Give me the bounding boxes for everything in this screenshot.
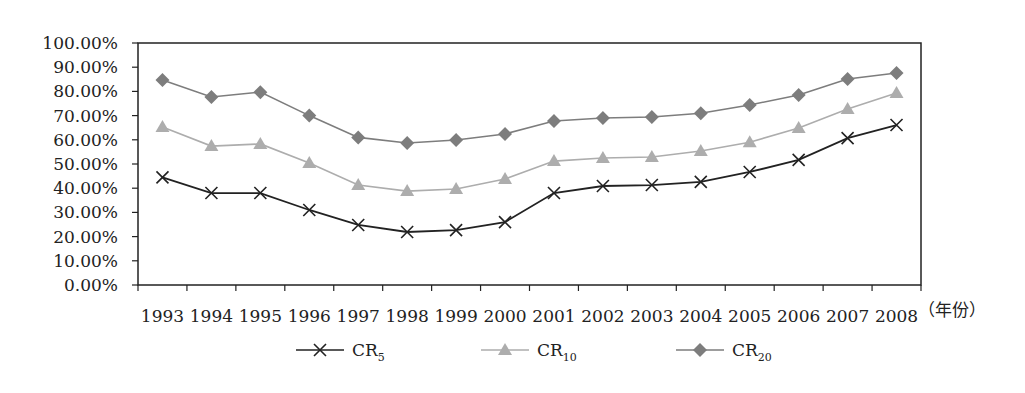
diamond-marker-icon <box>449 133 463 147</box>
line-chart: 0.00%10.00%20.00%30.00%40.00%50.00%60.00… <box>0 0 1025 393</box>
x-tick-label: 2005 <box>728 306 771 326</box>
legend-label: CR10 <box>537 340 577 364</box>
x-axis-unit-label: （年份） <box>918 300 986 320</box>
legend-item-cr20: CR20 <box>676 340 772 364</box>
y-axis: 0.00%10.00%20.00%30.00%40.00%50.00%60.00… <box>42 33 138 295</box>
triangle-marker-icon <box>351 178 365 190</box>
x-marker-icon <box>842 132 854 144</box>
legend: CR5CR10CR20 <box>296 340 772 364</box>
y-tick-label: 100.00% <box>42 33 118 53</box>
x-tick-label: 2000 <box>483 306 526 326</box>
legend-label: CR5 <box>352 340 385 364</box>
triangle-marker-icon <box>302 156 316 168</box>
x-tick-label: 2001 <box>532 306 575 326</box>
series-cr5 <box>156 119 902 238</box>
x-marker-icon <box>303 204 315 216</box>
diamond-marker-icon <box>694 106 708 120</box>
x-tick-label: 2008 <box>875 306 918 326</box>
diamond-marker-icon <box>596 111 610 125</box>
x-tick-label: 1993 <box>141 306 184 326</box>
diamond-marker-icon <box>792 88 806 102</box>
diamond-marker-icon <box>693 343 707 357</box>
x-tick-label: 2004 <box>679 306 722 326</box>
diamond-marker-icon <box>547 114 561 128</box>
y-tick-label: 10.00% <box>53 251 118 271</box>
x-marker-icon <box>891 119 903 131</box>
legend-item-cr10: CR10 <box>481 340 577 364</box>
y-tick-label: 50.00% <box>53 154 118 174</box>
series-line <box>162 73 896 143</box>
series-line <box>162 93 896 191</box>
y-tick-label: 70.00% <box>53 106 118 126</box>
y-tick-label: 0.00% <box>64 275 118 295</box>
x-tick-label: 2002 <box>581 306 624 326</box>
triangle-marker-icon <box>890 86 904 98</box>
y-tick-label: 20.00% <box>53 227 118 247</box>
series-line <box>162 125 896 232</box>
y-tick-label: 90.00% <box>53 57 118 77</box>
diamond-marker-icon <box>204 90 218 104</box>
x-tick-label: 1995 <box>239 306 282 326</box>
x-tick-label: 1994 <box>190 306 233 326</box>
x-tick-label: 2007 <box>826 306 869 326</box>
y-tick-label: 80.00% <box>53 81 118 101</box>
x-tick-label: 1999 <box>434 306 477 326</box>
diamond-marker-icon <box>400 136 414 150</box>
diamond-marker-icon <box>253 85 267 99</box>
x-marker-icon <box>793 154 805 166</box>
triangle-marker-icon <box>792 121 806 133</box>
x-tick-label: 1997 <box>337 306 380 326</box>
diamond-marker-icon <box>302 109 316 123</box>
x-tick-label: 2006 <box>777 306 820 326</box>
triangle-marker-icon <box>253 137 267 149</box>
diamond-marker-icon <box>155 73 169 87</box>
triangle-marker-icon <box>596 151 610 163</box>
series-cr10 <box>155 86 903 196</box>
triangle-marker-icon <box>155 120 169 132</box>
diamond-marker-icon <box>498 127 512 141</box>
y-tick-label: 60.00% <box>53 130 118 150</box>
diamond-marker-icon <box>743 98 757 112</box>
y-tick-label: 40.00% <box>53 178 118 198</box>
diamond-marker-icon <box>645 110 659 124</box>
x-marker-icon <box>156 171 168 183</box>
diamond-marker-icon <box>890 66 904 80</box>
diamond-marker-icon <box>841 72 855 86</box>
x-tick-label: 2003 <box>630 306 673 326</box>
x-tick-label: 1996 <box>288 306 331 326</box>
triangle-marker-icon <box>498 343 512 355</box>
y-tick-label: 30.00% <box>53 202 118 222</box>
diamond-marker-icon <box>351 130 365 144</box>
x-axis: 1993199419951996199719981999200020012002… <box>138 285 921 326</box>
legend-item-cr5: CR5 <box>296 340 385 364</box>
series-group <box>155 66 903 238</box>
x-tick-label: 1998 <box>386 306 429 326</box>
legend-label: CR20 <box>732 340 772 364</box>
series-cr20 <box>155 66 903 150</box>
